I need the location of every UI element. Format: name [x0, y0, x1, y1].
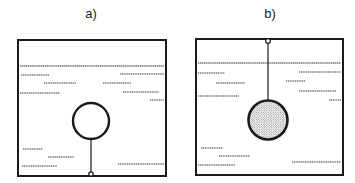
panel-a: a)	[18, 6, 166, 176]
panel-b-label: b)	[264, 6, 276, 21]
anchor-point-top	[266, 39, 271, 44]
panel-a-label: a)	[85, 6, 97, 21]
hollow-sphere	[73, 103, 109, 139]
panel-b: b)	[196, 6, 343, 175]
dense-sphere	[249, 101, 288, 140]
buoyancy-diagram: a) b)	[0, 0, 355, 183]
anchor-point-bottom	[89, 172, 93, 176]
